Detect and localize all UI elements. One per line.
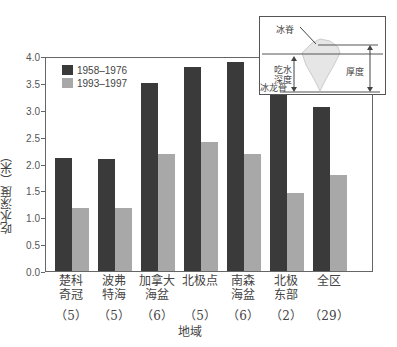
sample-count-label: （5） — [180, 306, 220, 323]
y-tick-label: 3.5 — [10, 78, 40, 89]
y-tick-label: 4.0 — [10, 52, 40, 63]
bar — [201, 142, 218, 271]
bar — [184, 67, 201, 271]
y-tick-label: 1.5 — [10, 186, 40, 197]
y-tick-mark — [41, 272, 45, 273]
chart-root: 吃水深度（米） 地域 1958–1976 1993–1997 冰脊 吃水深度 冰… — [0, 0, 397, 347]
y-tick-mark — [41, 84, 45, 85]
x-tick-label: 加拿大海盆 — [137, 274, 177, 302]
y-tick-label: 1.0 — [10, 213, 40, 224]
bar — [244, 154, 261, 271]
sample-count-label: （2） — [266, 306, 306, 323]
sample-count-label: （29） — [309, 306, 349, 323]
legend-item: 1993–1997 — [62, 77, 127, 89]
inset-label-thickness: 厚度 — [346, 65, 364, 78]
sample-count-label: （6） — [223, 306, 263, 323]
legend: 1958–1976 1993–1997 — [62, 64, 127, 90]
bar — [330, 175, 347, 271]
y-tick-mark — [41, 111, 45, 112]
y-tick-label: 0.0 — [10, 267, 40, 278]
bar — [55, 158, 72, 271]
x-axis-label: 地域 — [160, 322, 220, 339]
y-tick-label: 3.0 — [10, 105, 40, 116]
y-tick-mark — [41, 165, 45, 166]
bar — [72, 208, 89, 271]
bar — [270, 95, 287, 271]
bar — [98, 159, 115, 271]
sample-count-label: （5） — [51, 306, 91, 323]
x-tick-label: 波弗特海 — [94, 274, 134, 302]
x-tick-label: 南森海盆 — [223, 274, 263, 302]
iceberg-inset-diagram: 冰脊 吃水深度 冰龙骨 厚度 — [259, 16, 386, 95]
inset-label-ridge: 冰脊 — [276, 23, 294, 36]
y-tick-mark — [41, 218, 45, 219]
legend-item: 1958–1976 — [62, 64, 127, 76]
y-tick-mark — [41, 245, 45, 246]
x-tick-label: 北极点 — [180, 274, 220, 288]
bar — [287, 193, 304, 271]
sample-count-label: （6） — [137, 306, 177, 323]
y-tick-mark — [41, 57, 45, 58]
bar — [227, 62, 244, 271]
inset-label-keel: 冰龙骨 — [260, 81, 287, 94]
y-tick-label: 0.5 — [10, 240, 40, 251]
y-tick-label: 2.5 — [10, 132, 40, 143]
y-tick-mark — [41, 191, 45, 192]
x-tick-label: 全区 — [309, 274, 349, 288]
bar — [158, 154, 175, 271]
bar — [115, 208, 132, 271]
x-tick-label: 楚科奇冠 — [51, 274, 91, 302]
x-tick-label: 北极东部 — [266, 274, 306, 302]
bar — [313, 107, 330, 271]
y-tick-mark — [41, 138, 45, 139]
sample-count-label: （5） — [94, 306, 134, 323]
y-tick-label: 2.0 — [10, 159, 40, 170]
bar — [141, 83, 158, 271]
